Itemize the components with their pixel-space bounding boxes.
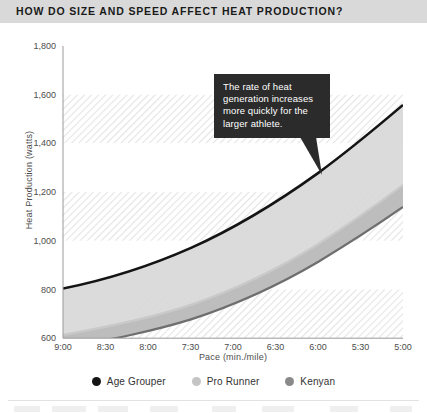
ytick-1800: 1,800 [12,41,56,51]
footer-text-stub [98,406,128,412]
title-bar: HOW DO SIZE AND SPEED AFFECT HEAT PRODUC… [0,0,427,23]
footer-text-stub [52,406,86,412]
xtick-7-00: 7:00 [211,342,255,352]
ytick-800: 800 [12,285,56,295]
legend-label: Age Grouper [107,376,166,387]
xtick-6-00: 6:00 [296,342,340,352]
chart-container: 1,800 1,600 1,400 1,200 1,000 800 600 9:… [0,23,427,378]
legend-label: Kenyan [300,376,335,387]
xtick-5-00: 5:00 [381,342,425,352]
footer-text-stub [212,406,236,412]
callout-annotation: The rate of heat generation increases mo… [214,74,330,138]
xtick-8-30: 8:30 [84,342,128,352]
xtick-7-30: 7:30 [169,342,213,352]
xtick-6-30: 6:30 [254,342,298,352]
callout-text: The rate of heat generation increases mo… [223,81,322,130]
ytick-1400: 1,400 [12,138,56,148]
legend-item-kenyan[interactable]: Kenyan [285,376,335,387]
legend-item-pro-runner[interactable]: Pro Runner [192,376,260,387]
legend-dot-icon [285,377,294,386]
footer-text-stub [14,406,40,412]
ytick-1600: 1,600 [12,90,56,100]
footer-text-stub [330,406,358,412]
page-title: HOW DO SIZE AND SPEED AFFECT HEAT PRODUC… [16,5,343,17]
ytick-1000: 1,000 [12,236,56,246]
footer-text-stub [150,406,178,412]
chart-legend: Age Grouper Pro Runner Kenyan [0,371,427,391]
xtick-8-00: 8:00 [126,342,170,352]
ytick-1200: 1,200 [12,187,56,197]
legend-item-age-grouper[interactable]: Age Grouper [92,376,166,387]
footer-text-stub [390,406,412,412]
xtick-5-30: 5:30 [339,342,383,352]
footer-divider [8,400,419,401]
xtick-9-00: 9:00 [41,342,85,352]
y-axis-title: Heat Production (watts) [24,110,34,250]
legend-dot-icon [92,377,101,386]
x-axis-title: Pace (min./mile) [63,352,403,362]
legend-label: Pro Runner [207,376,260,387]
chart-page: HOW DO SIZE AND SPEED AFFECT HEAT PRODUC… [0,0,427,413]
footer-text-stub [262,406,294,412]
legend-dot-icon [192,377,201,386]
